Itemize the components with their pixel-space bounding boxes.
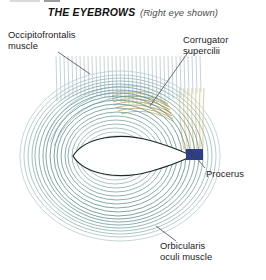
label-orbicularis-line2: oculi muscle	[160, 251, 212, 262]
label-occipitofrontalis-muscle: Occipitofrontalis muscle	[8, 29, 76, 52]
label-corrugator-line1: Corrugator	[183, 34, 228, 45]
procerus-insertion-block	[186, 149, 203, 160]
label-occipitofrontalis-line2: muscle	[8, 40, 76, 51]
label-corrugator-line2: supercilii	[183, 45, 228, 56]
label-procerus-text: Procerus	[206, 168, 244, 179]
label-orbicularis-line1: Orbicularis	[160, 240, 212, 251]
leader-line-occipitofrontalis	[58, 52, 90, 74]
label-corrugator-supercilii: Corrugator supercilii	[183, 34, 228, 57]
label-procerus: Procerus	[206, 168, 244, 179]
label-orbicularis-oculi-muscle: Orbicularis oculi muscle	[160, 240, 212, 263]
label-occipitofrontalis-line1: Occipitofrontalis	[8, 29, 76, 40]
figure-canvas: THE EYEBROWS (Right eye shown)	[0, 0, 266, 280]
palpebral-fissure-aperture	[73, 136, 191, 175]
